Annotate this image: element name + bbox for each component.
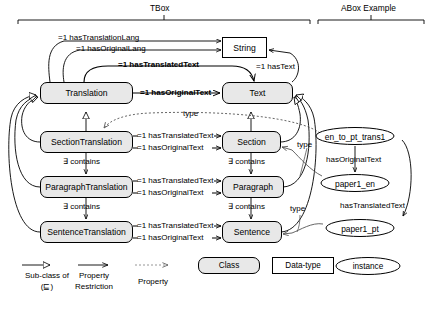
edge-label-abox-has-translated-text: hasTranslatedText <box>340 201 405 210</box>
edge-label-has-translation-lang: =1 hasTranslationLang <box>58 33 139 42</box>
class-label-sentence: Sentence <box>234 227 270 237</box>
edge-label-contains-paragraph: ∃ contains <box>228 202 265 211</box>
edge-label-abox-has-original-text: hasOriginalText <box>326 155 381 164</box>
legend-restriction-label-1: Property <box>68 271 120 280</box>
edge-label-has-translated-text: =1 hasTranslatedText <box>118 60 199 69</box>
legend-datatype-label: Data-type <box>285 261 321 270</box>
datatype-box-string[interactable]: String <box>222 37 267 58</box>
diagram-canvas: TBox ABox Example String Translation Tex… <box>0 0 432 313</box>
class-label-translation: Translation <box>65 88 107 98</box>
instance-paper1-pt[interactable]: paper1_pt <box>326 220 394 237</box>
instance-en-to-pt-trans1[interactable]: en_to_pt_trans1 <box>316 128 394 145</box>
edge-subclass-sentencetranslation <box>9 95 40 232</box>
instance-label-paper1-en: paper1_en <box>335 179 375 189</box>
edge-label-type-section: type <box>297 140 312 149</box>
abox-brace <box>318 15 424 24</box>
legend-property-label: Property <box>126 277 180 286</box>
edge-label-sentence-original: =1 hasOriginalText <box>137 233 203 242</box>
class-label-section: Section <box>237 137 266 147</box>
edge-label-contains-st: ∃ contains <box>63 157 100 166</box>
class-box-translation[interactable]: Translation <box>40 82 133 104</box>
instance-label-paper1-pt: paper1_pt <box>341 224 379 234</box>
legend-class-label: Class <box>219 261 239 270</box>
class-box-paragraph[interactable]: Paragraph <box>222 176 284 198</box>
edge-label-has-original-lang: =1 hasOriginalLang <box>76 44 146 53</box>
legend-datatype-box: Data-type <box>272 257 334 274</box>
edge-label-section-translated: =1 hasTranslatedText <box>137 131 213 140</box>
datatype-label-string: String <box>233 43 255 53</box>
instance-label-en-to-pt-trans1: en_to_pt_trans1 <box>325 132 386 142</box>
class-box-sectiontranslation[interactable]: SectionTranslation <box>40 131 133 153</box>
class-box-paragraphtranslation[interactable]: ParagraphTranslation <box>40 176 133 198</box>
edge-label-paragraph-translated: =1 hasTranslatedText <box>137 176 213 185</box>
edge-label-contains-pt: ∃ contains <box>63 202 100 211</box>
class-box-section[interactable]: Section <box>222 131 281 153</box>
edge-label-type-translation: type <box>183 109 198 118</box>
edge-label-has-text: =1 hasText <box>256 62 295 71</box>
class-label-text: Text <box>250 88 266 98</box>
edge-label-has-original-text: =1 hasOriginalText <box>140 88 211 97</box>
class-label-paragraph: Paragraph <box>233 182 273 192</box>
class-box-sentence[interactable]: Sentence <box>222 221 282 243</box>
instance-paper1-en[interactable]: paper1_en <box>321 175 389 192</box>
abox-label: ABox Example <box>341 3 396 13</box>
class-box-text[interactable]: Text <box>222 82 293 104</box>
edge-label-contains-section: ∃ contains <box>228 157 265 166</box>
edge-type-translation <box>104 112 320 133</box>
class-box-sentencetranslation[interactable]: SentenceTranslation <box>40 221 133 243</box>
class-label-sectiontranslation: SectionTranslation <box>51 137 122 147</box>
edge-label-type-sentence: type <box>290 204 305 213</box>
class-label-sentencetranslation: SentenceTranslation <box>47 227 126 237</box>
legend-restriction-label-2: Restriction <box>68 282 120 291</box>
tbox-label: TBox <box>150 3 170 13</box>
legend-class-box: Class <box>198 257 260 274</box>
tbox-brace <box>18 15 310 24</box>
class-label-paragraphtranslation: ParagraphTranslation <box>45 182 127 192</box>
edge-label-paragraph-original: =1 hasOriginalText <box>137 188 203 197</box>
legend-instance-label: instance <box>353 262 384 271</box>
edge-type-sentence <box>283 224 323 234</box>
edge-label-section-original: =1 hasOriginalText <box>137 143 203 152</box>
edge-label-sentence-translated: =1 hasTranslatedText <box>137 221 213 230</box>
legend-instance-shape: instance <box>336 258 400 275</box>
